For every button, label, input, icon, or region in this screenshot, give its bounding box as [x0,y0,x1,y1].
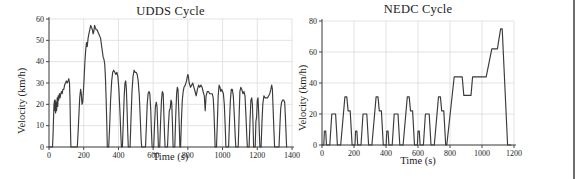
nedc-chart-title: NEDC Cycle [322,2,514,17]
svg-text:0: 0 [40,143,44,152]
svg-text:0: 0 [313,141,317,150]
svg-text:20: 20 [309,110,317,119]
svg-text:30: 30 [36,79,44,88]
svg-text:10: 10 [36,121,44,130]
nedc-y-axis-label: Velocity (km/h) [297,65,308,131]
udds-chart-title: UDDS Cycle [49,4,292,19]
svg-text:60: 60 [309,48,317,57]
udds-y-axis-label: Velocity (km/h) [16,68,27,134]
svg-text:50: 50 [36,36,44,45]
nedc-x-axis-label: Time (s) [322,155,514,166]
svg-text:20: 20 [36,100,44,109]
figure-right-border-line [573,0,575,179]
svg-text:40: 40 [36,57,44,66]
svg-text:40: 40 [309,79,317,88]
svg-text:80: 80 [309,17,317,26]
nedc-cycle-chart: 020040060080010001200020406080 NEDC Cycl… [290,0,560,179]
svg-text:60: 60 [36,15,44,24]
udds-cycle-chart: 02004006008001000120014000102030405060 U… [0,0,300,179]
udds-x-axis-label: Time (s) [49,151,292,162]
figure-two-drive-cycles: 02004006008001000120014000102030405060 U… [0,0,579,179]
nedc-chart-plot: 020040060080010001200020406080 [290,0,560,179]
